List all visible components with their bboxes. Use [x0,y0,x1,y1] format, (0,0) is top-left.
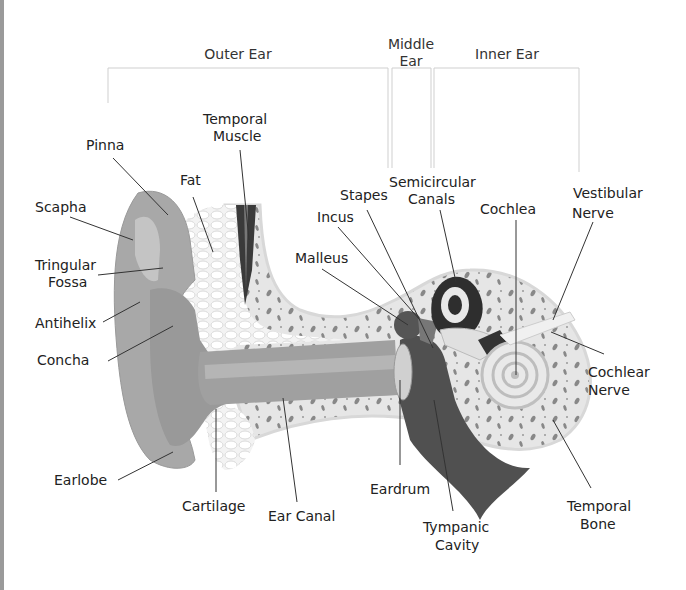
label-cochlear-nerve-2: Nerve [588,382,630,399]
section-middle-ear-line1: Middle [381,36,441,53]
label-cochlea: Cochlea [480,201,536,218]
section-outer-ear: Outer Ear [198,46,278,63]
label-antihelix: Antihelix [35,315,96,332]
label-eardrum: Eardrum [370,481,430,498]
label-stapes: Stapes [340,187,388,204]
label-temporal-bone-1: Temporal [567,498,631,515]
label-tympanic-cavity-1: Tympanic [423,519,489,536]
label-malleus: Malleus [295,250,348,267]
label-temporal-muscle-1: Temporal [203,111,267,128]
label-cartilage: Cartilage [182,498,245,515]
label-incus: Incus [317,209,354,226]
label-vestibular-nerve-2: Nerve [572,205,614,222]
label-cochlear-nerve-1: Cochlear [588,364,650,381]
label-tringular-fossa-1: Tringular [35,257,96,274]
label-pinna: Pinna [86,137,124,154]
label-vestibular-nerve-1: Vestibular [573,185,643,202]
label-concha: Concha [37,352,89,369]
section-middle-ear-line2: Ear [381,53,441,70]
label-semicircular-canals-1: Semicircular [389,174,476,191]
label-scapha: Scapha [35,199,87,216]
section-inner-ear: Inner Ear [467,46,547,63]
label-temporal-muscle-2: Muscle [213,128,261,145]
label-temporal-bone-2: Bone [580,516,616,533]
label-tringular-fossa-2: Fossa [48,274,87,291]
cochlea-shape [482,342,548,408]
section-brackets [108,68,579,172]
label-tympanic-cavity-2: Cavity [435,537,479,554]
label-fat: Fat [180,172,201,189]
label-semicircular-canals-2: Canals [408,191,455,208]
label-earlobe: Earlobe [54,472,107,489]
eardrum-shape [394,344,412,400]
label-ear-canal: Ear Canal [268,508,335,525]
